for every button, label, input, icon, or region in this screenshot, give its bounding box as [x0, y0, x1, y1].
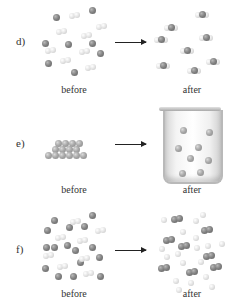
light-atom: [209, 284, 215, 290]
solid-atom: [59, 152, 66, 159]
dark-atom: [70, 273, 77, 280]
dark-atom: [96, 254, 103, 261]
light-atom: [176, 287, 182, 293]
central-atom: [199, 11, 206, 18]
caption-before-d: before: [49, 84, 99, 95]
light-atom: [198, 259, 204, 265]
dark-atom: [89, 7, 96, 14]
light-diatomic-molecule: [90, 64, 96, 70]
central-atom: [168, 24, 175, 31]
beaker-rim: [159, 107, 221, 111]
light-diatomic-molecule: [84, 48, 90, 54]
solid-atom: [45, 152, 52, 159]
panel-label-f: f): [16, 243, 23, 255]
dark-diatomic-molecule: [191, 268, 198, 275]
light-diatomic-molecule: [84, 255, 90, 261]
light-diatomic-molecule: [48, 252, 54, 258]
dissolved-atom: [195, 144, 202, 151]
dark-atom: [81, 223, 88, 230]
light-atom: [173, 278, 179, 284]
light-atom: [193, 218, 199, 224]
dark-atom: [51, 244, 58, 251]
central-atom: [184, 47, 191, 54]
light-atom: [175, 251, 181, 257]
caption-after-e: after: [167, 184, 217, 195]
dark-diatomic-molecule: [206, 226, 213, 233]
reaction-arrow-e: [115, 144, 146, 145]
light-atom: [203, 274, 209, 280]
dark-diatomic-molecule: [168, 236, 175, 243]
light-diatomic-molecule: [65, 57, 71, 63]
light-atom: [164, 254, 170, 260]
dark-atom: [89, 212, 96, 219]
dark-atom: [43, 244, 50, 251]
caption-after-f: after: [167, 288, 217, 299]
light-atom: [219, 241, 225, 247]
dark-diatomic-molecule: [215, 263, 222, 270]
central-atom: [210, 58, 217, 65]
dark-atom: [89, 244, 96, 251]
dark-atom: [97, 50, 104, 57]
reaction-arrow-f: [115, 250, 146, 251]
dark-atom: [55, 273, 62, 280]
solid-atom: [55, 140, 62, 147]
light-atom: [200, 212, 206, 218]
caption-after-d: after: [167, 84, 217, 95]
solid-atom: [80, 152, 87, 159]
solid-atom: [62, 140, 69, 147]
dark-diatomic-molecule: [183, 242, 190, 249]
dissolved-atom: [175, 145, 182, 152]
light-diatomic-molecule: [74, 12, 80, 18]
light-diatomic-molecule: [82, 237, 88, 243]
dissolved-atom: [179, 170, 186, 177]
dark-atom: [97, 273, 104, 280]
light-atom: [188, 280, 194, 286]
light-diatomic-molecule: [100, 227, 106, 233]
panel-label-e: e): [16, 137, 25, 149]
dark-diatomic-molecule: [176, 215, 183, 222]
central-atom: [191, 67, 198, 74]
dark-atom: [65, 41, 72, 48]
light-diatomic-molecule: [60, 234, 66, 240]
dark-atom: [42, 40, 49, 47]
caption-before-e: before: [49, 184, 99, 195]
central-atom: [160, 62, 167, 69]
dissolved-atom: [205, 157, 212, 164]
dark-diatomic-molecule: [208, 252, 215, 259]
light-atom: [180, 260, 186, 266]
dark-atom: [66, 224, 73, 231]
light-diatomic-molecule: [88, 270, 94, 276]
dissolved-atom: [187, 155, 194, 162]
dissolved-atom: [180, 127, 187, 134]
light-diatomic-molecule: [50, 47, 56, 53]
caption-before-f: before: [49, 288, 99, 299]
dark-atom: [45, 60, 52, 67]
light-atom: [193, 235, 199, 241]
light-diatomic-molecule: [62, 263, 68, 269]
dark-atom: [42, 265, 49, 272]
dissolved-atom: [206, 129, 213, 136]
light-diatomic-molecule: [86, 32, 92, 38]
dissolved-atom: [197, 169, 204, 176]
dark-atom: [64, 242, 71, 249]
central-atom: [158, 36, 165, 43]
beaker-glass: [163, 110, 223, 184]
dark-atom: [44, 227, 51, 234]
light-diatomic-molecule: [75, 218, 81, 224]
dark-atom: [71, 69, 78, 76]
light-atom: [161, 217, 167, 223]
light-diatomic-molecule: [61, 28, 67, 34]
dark-diatomic-molecule: [163, 264, 170, 271]
solid-atom: [73, 152, 80, 159]
light-atom: [205, 243, 211, 249]
solid-atom: [76, 140, 83, 147]
dark-atom: [53, 14, 60, 21]
solid-atom: [52, 152, 59, 159]
light-atom: [194, 245, 200, 251]
solid-atom: [66, 152, 73, 159]
dark-atom: [89, 40, 96, 47]
dark-atom: [51, 217, 58, 224]
central-atom: [203, 34, 210, 41]
panel-label-d: d): [16, 35, 25, 47]
light-diatomic-molecule: [101, 23, 107, 29]
